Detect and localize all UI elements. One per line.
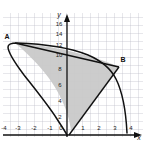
coordinate-plot: x y 4 3 2 1 0 -1 -2 -3 -4 2 4 — [0, 9, 147, 141]
y-tick-label: 12 — [56, 42, 63, 48]
x-tick-label: -2 — [31, 125, 37, 131]
point-label-b: B — [120, 56, 125, 63]
rotated-figure-wrapper: x y 4 3 2 1 0 -1 -2 -3 -4 2 4 — [0, 9, 147, 141]
y-tick-label: 16 — [56, 21, 63, 27]
x-tick-label: -4 — [1, 125, 7, 131]
plot-svg: x y 4 3 2 1 0 -1 -2 -3 -4 2 4 — [0, 9, 147, 141]
figure-canvas: x y 4 3 2 1 0 -1 -2 -3 -4 2 4 — [0, 0, 166, 150]
point-label-a: A — [4, 33, 9, 40]
y-axis-label: y — [56, 11, 61, 19]
x-tick-label: -3 — [15, 125, 21, 131]
y-tick-label: 14 — [56, 31, 63, 37]
x-axis-label: x — [136, 134, 141, 141]
x-tick-label: -1 — [47, 125, 53, 131]
y-tick-label: 10 — [56, 52, 63, 58]
